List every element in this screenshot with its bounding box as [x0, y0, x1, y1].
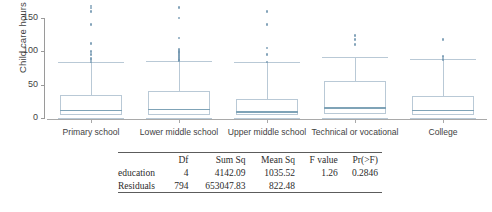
col-header-term — [118, 153, 166, 166]
boxplot-outlier-point — [90, 23, 93, 26]
cell-p-value: 0.2846 — [342, 166, 382, 179]
boxplot-outlier-point — [178, 17, 181, 20]
x-tick-label: Upper middle school — [223, 128, 311, 137]
y-tick-mark — [41, 118, 45, 119]
cell-df: 4 — [166, 166, 192, 179]
boxplot-outlier-point — [354, 38, 357, 41]
boxplot-median — [324, 107, 386, 108]
cell-term: Residuals — [118, 179, 166, 192]
x-tick-mark — [179, 119, 180, 123]
table-row: education 4 4142.09 1035.52 1.26 0.2846 — [118, 166, 382, 179]
anova-table-body: education 4 4142.09 1035.52 1.26 0.2846 … — [118, 166, 382, 192]
boxplot-whisker — [443, 59, 444, 96]
boxplot-whisker — [355, 57, 356, 81]
boxplot-outlier-point — [354, 43, 357, 46]
boxplot-whisker — [267, 62, 268, 99]
boxplot-whisker — [179, 61, 180, 92]
boxplot-whisker-cap — [58, 118, 124, 119]
boxplot-outlier-point — [354, 34, 357, 37]
boxplot-chart: Child care hours 050100150 Primary schoo… — [0, 0, 492, 145]
boxplot-median — [236, 111, 298, 112]
boxplot-outlier-point — [178, 48, 181, 51]
boxplot-outlier-point — [442, 38, 445, 41]
boxplot-outlier-point — [90, 50, 93, 53]
table-header-row: Df Sum Sq Mean Sq F value Pr(>F) — [118, 153, 382, 166]
boxplot-median — [148, 109, 210, 110]
boxplot-outlier-point — [442, 58, 445, 61]
x-tick-mark — [91, 119, 92, 123]
boxplot-outlier-point — [90, 42, 93, 45]
x-tick-mark — [267, 119, 268, 123]
cell-f-value: 1.26 — [299, 166, 342, 179]
boxplot-outlier-point — [266, 47, 269, 50]
boxplot-whisker-cap — [322, 57, 388, 58]
x-tick-label: College — [399, 128, 487, 137]
boxplot-whisker-cap — [322, 118, 388, 119]
boxplot-whisker-cap — [146, 118, 212, 119]
cell-df: 794 — [166, 179, 192, 192]
x-tick-mark — [355, 119, 356, 123]
boxplot-outlier-point — [266, 23, 269, 26]
boxplot-median — [60, 110, 122, 111]
anova-table: Df Sum Sq Mean Sq F value Pr(>F) educati… — [118, 152, 382, 193]
boxplot-whisker-cap — [234, 118, 300, 119]
boxplot-whisker-cap — [410, 118, 476, 119]
cell-mean-sq: 1035.52 — [250, 166, 300, 179]
y-tick-label: 50 — [0, 80, 38, 89]
y-tick-mark — [41, 85, 45, 86]
cell-sum-sq: 4142.09 — [192, 166, 249, 179]
boxplot-box — [412, 96, 474, 115]
y-tick-label: 0 — [0, 113, 38, 122]
boxplot-box — [60, 95, 122, 115]
col-header-mean-sq: Mean Sq — [250, 153, 300, 166]
cell-term: education — [118, 166, 166, 179]
boxplot-outlier-point — [90, 7, 93, 10]
x-tick-mark — [443, 119, 444, 123]
y-tick-mark — [41, 51, 45, 52]
boxplot-outlier-point — [178, 37, 181, 40]
boxplot-outlier-point — [90, 10, 93, 13]
y-axis-line — [44, 19, 45, 119]
col-header-f-value: F value — [299, 153, 342, 166]
boxplot-box — [324, 81, 386, 114]
boxplot-whisker — [91, 62, 92, 95]
boxplot-outlier-point — [266, 10, 269, 13]
boxplot-box — [148, 91, 210, 114]
boxplot-outlier-point — [266, 53, 269, 56]
boxplot-median — [412, 110, 474, 111]
x-tick-label: Technical or vocational — [311, 128, 399, 137]
y-tick-mark — [41, 18, 45, 19]
cell-sum-sq: 653047.83 — [192, 179, 249, 192]
anova-table-head: Df Sum Sq Mean Sq F value Pr(>F) — [118, 153, 382, 166]
col-header-df: Df — [166, 153, 192, 166]
cell-f-value — [299, 179, 342, 192]
y-tick-label: 100 — [0, 46, 38, 55]
figure-panel: Child care hours 050100150 Primary schoo… — [0, 0, 492, 212]
col-header-sum-sq: Sum Sq — [192, 153, 249, 166]
boxplot-outlier-point — [178, 6, 181, 9]
col-header-p-value: Pr(>F) — [342, 153, 382, 166]
cell-mean-sq: 822.48 — [250, 179, 300, 192]
y-tick-label: 150 — [0, 13, 38, 22]
x-tick-label: Primary school — [47, 128, 135, 137]
anova-table-grid: Df Sum Sq Mean Sq F value Pr(>F) educati… — [118, 153, 382, 192]
cell-p-value — [342, 179, 382, 192]
boxplot-outlier-point — [90, 53, 93, 56]
table-rule-bottom — [118, 192, 382, 193]
boxplot-box — [236, 99, 298, 115]
x-tick-label: Lower middle school — [135, 128, 223, 137]
table-row: Residuals 794 653047.83 822.48 — [118, 179, 382, 192]
